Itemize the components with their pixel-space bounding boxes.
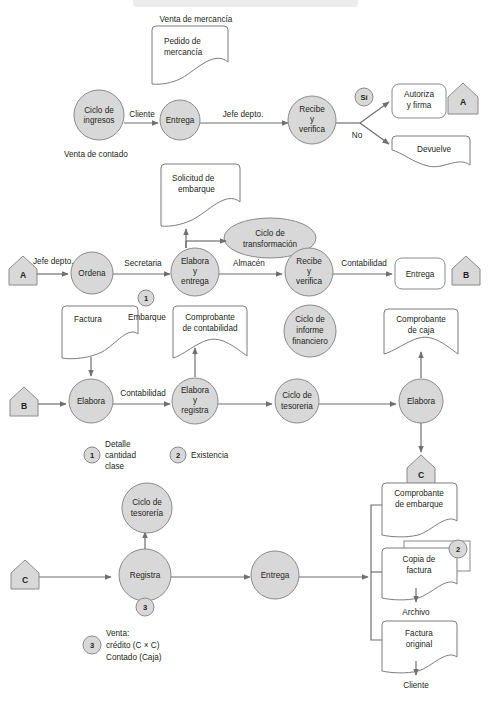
document-factura-label: Factura (74, 315, 102, 324)
diagram-page: Venta de mercancía Pedido de mercancía C… (0, 0, 490, 701)
node-elabora-y-registra-l3: registra (181, 406, 209, 415)
legend-1-line3: clase (105, 462, 125, 471)
edge-label-jefe-depto-row1: Jefe depto. (223, 110, 264, 119)
document-copia-factura-l1: Copia de (403, 555, 436, 564)
node-elabora-y-entrega-l3: entrega (181, 277, 209, 286)
connector-c-row3-label: C (418, 470, 424, 480)
node-ordena-label: Ordena (78, 269, 106, 278)
flowchart-canvas: Venta de mercancía Pedido de mercancía C… (0, 0, 490, 701)
document-solicitud-embarque-l2: embarque (178, 185, 215, 194)
node-entrega-row2-label: Entrega (406, 270, 435, 279)
document-comprobante-contabilidad-l2: de contabilidad (182, 324, 238, 333)
caption-venta-contado: Venta de contado (64, 150, 128, 159)
document-pedido-mercancia-line2: mercancía (164, 48, 203, 57)
node-recibe-verifica-row1-l1: Recibe (299, 105, 325, 114)
node-elabora-row3-right-label: Elabora (407, 397, 436, 406)
node-ciclo-informe-financiero-l3: financiero (292, 337, 328, 346)
edge-label-contabilidad-row2: Contabilidad (341, 259, 387, 268)
connector-a-row2-label: A (20, 270, 26, 280)
node-elabora-y-registra-l1: Elabora (181, 386, 210, 395)
node-recibe-verifica-row1-l3: verifica (299, 125, 325, 134)
document-factura-original-l1: Factura (405, 629, 433, 638)
document-comprobante-caja-l1: Comprobante (396, 315, 446, 324)
node-ciclo-informe-financiero-l2: informe (296, 326, 324, 335)
node-elabora-y-entrega-l1: Elabora (181, 257, 210, 266)
node-ciclo-tesoreria-row3-l1: Ciclo de (282, 391, 312, 400)
node-autoriza-y-firma-l1: Autoriza (404, 90, 434, 99)
legend-3-line1: Venta: (106, 629, 129, 638)
document-comprobante-embarque-l2: de embarque (395, 500, 444, 509)
badge-2-row4-label: 2 (456, 545, 460, 554)
node-ciclo-informe-financiero-l1: Ciclo de (295, 315, 325, 324)
document-devuelve-label: Devuelve (417, 145, 452, 154)
document-comprobante-contabilidad-l1: Comprobante (185, 313, 235, 322)
edge-branch-no (360, 123, 389, 144)
legend-3-line3: Contado (Caja) (106, 653, 162, 662)
legend-badge-2-label: 2 (176, 451, 180, 460)
node-recibe-verifica-row2-l1: Recibe (296, 257, 322, 266)
node-ciclo-transformacion-l1: Ciclo de (255, 229, 285, 238)
node-ciclo-tesoreria-row3-l2: tesoreria (281, 402, 313, 411)
edge-label-almacen: Almacén (233, 259, 265, 268)
node-ciclo-de-ingresos[interactable] (74, 90, 124, 140)
connector-b-row3-label: B (21, 401, 27, 411)
edge-label-jefe-depto-row2: Jefe depto. (33, 257, 74, 266)
connector-b-row2-label: B (463, 270, 469, 280)
document-copia-factura-l2: factura (406, 566, 431, 575)
node-recibe-verifica-row2-l3: verifica (296, 277, 322, 286)
document-comprobante-embarque-l1: Comprobante (394, 489, 444, 498)
document-solicitud-embarque-l1: Solicitud de (172, 174, 215, 183)
legend-badge-3-label: 3 (90, 641, 94, 650)
edge-label-no: No (352, 131, 363, 140)
label-archivo: Archivo (402, 608, 430, 617)
node-ciclo-de-ingresos-line1: Ciclo de (84, 106, 114, 115)
node-autoriza-y-firma-l2: y firma (407, 101, 432, 110)
document-pedido-mercancia-line1: Pedido de (164, 37, 201, 46)
edge-label-cliente: Cliente (129, 110, 155, 119)
edge-label-secretaria: Secretaria (124, 259, 162, 268)
node-ciclo-transformacion-l2: transformación (243, 240, 298, 249)
node-entrega-row4-label: Entrega (261, 571, 290, 580)
node-ciclo-tesoreria-row3[interactable] (275, 379, 319, 423)
badge-3-row4-label: 3 (143, 603, 147, 612)
document-comprobante-caja-l2: de caja (408, 326, 435, 335)
connector-a-row1-label: A (460, 97, 466, 107)
node-ciclo-de-ingresos-line2: ingresos (84, 116, 115, 125)
caption-venta-mercancia: Venta de mercancía (160, 15, 233, 24)
legend-1-line1: Detalle (105, 440, 131, 449)
node-elabora-row3-label: Elabora (77, 397, 106, 406)
node-ciclo-tesoreria-row4-l1: Ciclo de (132, 498, 162, 507)
node-ciclo-tesoreria-row4-l2: tesorería (131, 509, 164, 518)
node-ciclo-tesoreria-row4[interactable] (122, 483, 172, 533)
legend-2-text: Existencia (191, 451, 229, 460)
node-registra-label: Registra (130, 571, 161, 580)
node-entrega-row1-label: Entrega (166, 116, 195, 125)
label-embarque: Embarque (128, 313, 166, 322)
connector-c-row4-label: C (22, 575, 28, 585)
edge-label-contabilidad-row3: Contabilidad (120, 389, 166, 398)
badge-si-label: Sí (360, 93, 368, 102)
legend-1-line2: cantidad (105, 451, 136, 460)
label-cliente-bottom: Cliente (403, 681, 429, 690)
document-factura-original-l2: original (406, 640, 433, 649)
legend-3-line2: crédito (C × C) (106, 641, 160, 650)
document-factura (62, 306, 138, 359)
